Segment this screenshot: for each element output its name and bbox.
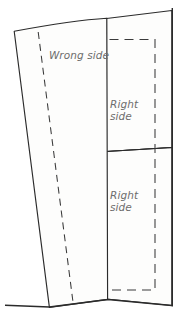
label-wrong-side: Wrong side [49, 50, 109, 62]
lower-back-panel [107, 148, 172, 306]
upper-back-panel [107, 11, 172, 152]
back-panels-group [107, 8, 173, 307]
label-right-side-upper: Right side [110, 99, 138, 123]
label-right-side-lower: Right side [110, 190, 138, 214]
garment-diagram: Wrong side Right side Right side [0, 0, 183, 327]
